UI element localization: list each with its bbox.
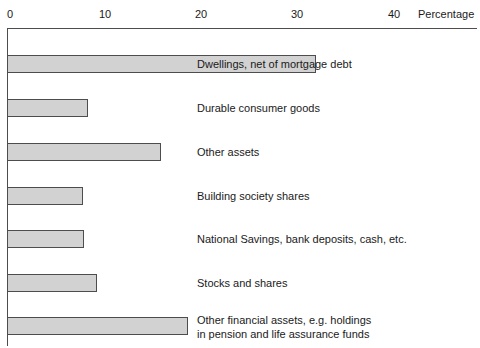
- bar-other-assets: [7, 143, 161, 161]
- bar-national-savings-bank-deposits-cash: [7, 230, 84, 248]
- bar-other-financial-assets: [7, 317, 188, 335]
- bar-label-building-society-shares: Building society shares: [197, 189, 310, 203]
- bar-chart: 0 10 20 30 40 Percentage Dwellings, net …: [0, 0, 480, 348]
- x-axis-title: Percentage: [418, 8, 474, 21]
- bar-label-dwellings-net-of-mortgage-debt: Dwellings, net of mortgage debt: [197, 57, 352, 71]
- x-tick-label-0: 0: [7, 8, 13, 21]
- bar-label-other-financial-assets: Other financial assets, e.g. holdings in…: [197, 313, 371, 341]
- x-tick-label-30: 30: [291, 8, 303, 21]
- x-tick-label-40: 40: [388, 8, 400, 21]
- x-tick-label-10: 10: [99, 8, 111, 21]
- bar-building-society-shares: [7, 187, 83, 205]
- x-tick-label-20: 20: [195, 8, 207, 21]
- bar-label-other-assets: Other assets: [197, 145, 259, 159]
- x-axis-line: [7, 28, 477, 29]
- bar-durable-consumer-goods: [7, 99, 88, 117]
- bar-label-durable-consumer-goods: Durable consumer goods: [197, 101, 320, 115]
- bar-label-stocks-and-shares: Stocks and shares: [197, 276, 288, 290]
- bar-label-national-savings-bank-deposits-cash: National Savings, bank deposits, cash, e…: [197, 232, 407, 246]
- bar-stocks-and-shares: [7, 274, 97, 292]
